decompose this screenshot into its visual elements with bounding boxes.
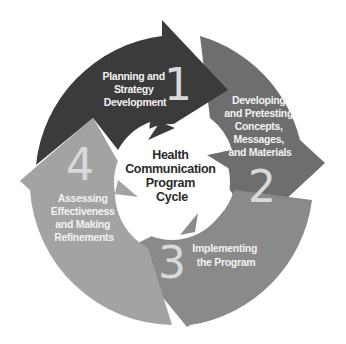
segment-2-number: 2 [248, 161, 276, 212]
segment-4-label: Assessing Effectiveness and Making Refin… [51, 192, 117, 243]
health-communication-cycle-diagram: Planning and Strategy Development 1 Deve… [0, 0, 346, 344]
segment-3-number: 3 [158, 237, 186, 288]
segment-2-label: Developing and Pretesting Concepts, Mess… [224, 94, 295, 158]
segment-4-number: 4 [66, 139, 94, 190]
segment-1-number: 1 [164, 59, 192, 110]
